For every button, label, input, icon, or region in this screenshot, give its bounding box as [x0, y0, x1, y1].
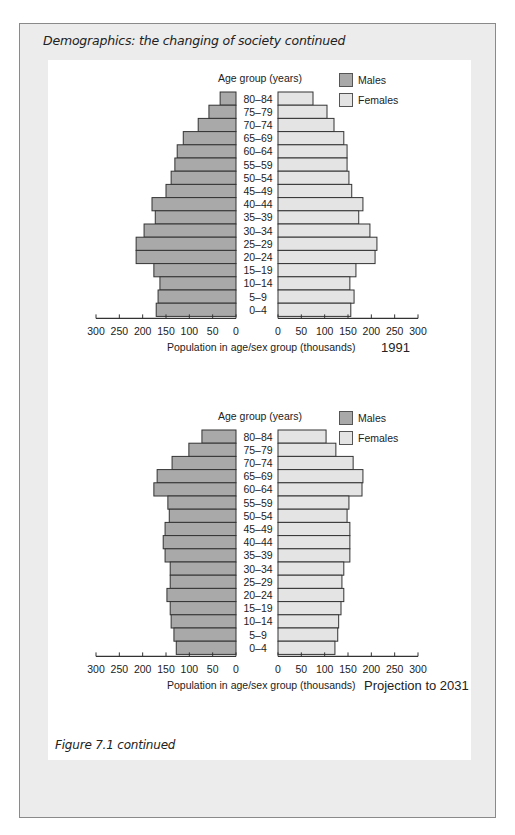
female-bar — [278, 549, 350, 562]
age-group-label: 20–24 — [242, 589, 274, 601]
legend-swatch-females — [339, 93, 353, 107]
age-group-label: 35–39 — [242, 549, 274, 561]
male-bar — [183, 132, 236, 145]
female-bar — [278, 171, 349, 184]
age-group-label: 60–64 — [242, 483, 274, 495]
female-bar — [278, 145, 347, 158]
male-bar — [169, 509, 236, 522]
male-bar — [136, 237, 236, 250]
age-group-label: 75–79 — [242, 444, 274, 456]
age-group-label: 25–29 — [242, 576, 274, 588]
female-bar — [278, 92, 313, 105]
female-bar — [278, 456, 353, 469]
age-group-label: 15–19 — [242, 264, 274, 276]
legend-label-males: Males — [358, 74, 386, 86]
female-bar — [278, 303, 351, 316]
legend-swatch-males — [339, 73, 353, 87]
female-bar — [278, 470, 363, 483]
male-bar — [167, 588, 236, 601]
female-bar — [278, 132, 344, 145]
age-group-label: 80–84 — [242, 93, 274, 105]
female-bar — [278, 105, 327, 118]
male-bar — [168, 496, 236, 509]
female-bar — [278, 562, 344, 575]
age-group-label: 70–74 — [242, 457, 274, 469]
female-bar — [278, 250, 375, 263]
age-group-label: 80–84 — [242, 431, 274, 443]
female-bar — [278, 575, 342, 588]
age-group-label: 15–19 — [242, 602, 274, 614]
figure-caption: Figure 7.1 continued — [55, 738, 175, 752]
male-bar — [166, 184, 236, 197]
female-bar — [278, 430, 326, 443]
male-bar — [202, 430, 236, 443]
age-group-label: 55–59 — [242, 497, 274, 509]
male-bar — [136, 250, 236, 263]
female-bar — [278, 237, 377, 250]
age-group-label: 0–4 — [242, 304, 274, 316]
female-bar — [278, 628, 338, 641]
female-bar — [278, 290, 354, 303]
age-group-label: 5–9 — [242, 629, 274, 641]
male-bar — [198, 118, 236, 131]
age-group-label: 30–34 — [242, 563, 274, 575]
pyramid-chart-2031: 80–8475–7970–7465–6960–6455–5950–5445–49… — [0, 338, 515, 718]
female-bar — [278, 158, 347, 171]
female-bar — [278, 641, 335, 654]
male-bar — [154, 483, 236, 496]
age-group-label: 10–14 — [242, 277, 274, 289]
age-group-label: 60–64 — [242, 145, 274, 157]
male-bar — [189, 443, 236, 456]
male-bar — [170, 562, 236, 575]
male-bar — [171, 171, 236, 184]
male-bar — [154, 264, 236, 277]
male-bar — [157, 470, 236, 483]
legend-label-females: Females — [358, 94, 398, 106]
age-group-label: 65–69 — [242, 470, 274, 482]
male-bar — [172, 456, 236, 469]
female-bar — [278, 184, 352, 197]
female-bar — [278, 496, 349, 509]
female-bar — [278, 277, 350, 290]
male-bar — [220, 92, 236, 105]
male-bar — [176, 641, 236, 654]
male-bar — [170, 602, 236, 615]
age-group-label: 25–29 — [242, 238, 274, 250]
age-group-label: 50–54 — [242, 510, 274, 522]
male-bar — [170, 575, 236, 588]
y-axis-title: Age group (years) — [218, 410, 302, 422]
age-group-label: 20–24 — [242, 251, 274, 263]
male-bar — [177, 145, 236, 158]
male-bar — [160, 277, 236, 290]
female-bar — [278, 211, 359, 224]
age-group-label: 35–39 — [242, 211, 274, 223]
male-bar — [155, 211, 236, 224]
female-bar — [278, 509, 347, 522]
x-axis-title: Population in age/sex group (thousands) — [167, 679, 356, 691]
female-bar — [278, 615, 339, 628]
male-bar — [163, 536, 236, 549]
female-bar — [278, 224, 370, 237]
age-group-label: 45–49 — [242, 523, 274, 535]
female-bar — [278, 443, 336, 456]
age-group-label: 0–4 — [242, 642, 274, 654]
female-bar — [278, 602, 341, 615]
age-group-label: 40–44 — [242, 536, 274, 548]
male-bar — [165, 549, 236, 562]
male-bar — [175, 158, 236, 171]
female-bar — [278, 264, 356, 277]
age-group-label: 45–49 — [242, 185, 274, 197]
age-group-label: 70–74 — [242, 119, 274, 131]
x-tick-label: 0 — [221, 663, 251, 675]
male-bar — [171, 615, 236, 628]
age-group-label: 10–14 — [242, 615, 274, 627]
female-bar — [278, 118, 334, 131]
legend-label-females: Females — [358, 432, 398, 444]
y-axis-title: Age group (years) — [218, 72, 302, 84]
age-group-label: 30–34 — [242, 225, 274, 237]
age-group-label: 5–9 — [242, 291, 274, 303]
female-bar — [278, 536, 350, 549]
female-bar — [278, 483, 362, 496]
male-bar — [152, 198, 236, 211]
age-group-label: 65–69 — [242, 132, 274, 144]
